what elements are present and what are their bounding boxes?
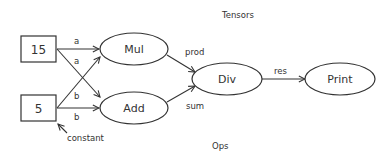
tensors-label: Tensors [221, 10, 254, 20]
ops-label: Ops [212, 141, 229, 151]
node-mul: Mul [100, 33, 168, 65]
constant-annotation: constant [67, 133, 105, 143]
node-mul-label: Mul [124, 43, 144, 56]
node-div-label: Div [218, 73, 237, 86]
node-add: Add [100, 92, 168, 124]
edges [57, 49, 305, 133]
edge-label-b-1: b [74, 91, 79, 101]
edge-label-a-2: a [74, 56, 79, 66]
edge-add-div [167, 86, 195, 102]
node-15: 15 [21, 36, 56, 62]
edge-label-prod: prod [185, 47, 204, 57]
node-print-label: Print [327, 73, 353, 86]
node-print: Print [305, 63, 375, 95]
constant-pointer-arrow [58, 124, 67, 133]
edge-label-b-2: b [74, 112, 79, 122]
edge-label-sum: sum [186, 101, 204, 111]
edge-mul-div [167, 55, 195, 72]
computation-graph: Tensors Ops a a b b prod sum res constan… [0, 0, 392, 160]
node-div: Div [192, 63, 262, 95]
node-add-label: Add [123, 102, 144, 115]
node-15-label: 15 [31, 43, 46, 57]
node-5: 5 [21, 95, 56, 121]
node-5-label: 5 [35, 102, 43, 116]
edge-label-a-1: a [74, 36, 79, 46]
edge-label-res: res [274, 66, 288, 76]
